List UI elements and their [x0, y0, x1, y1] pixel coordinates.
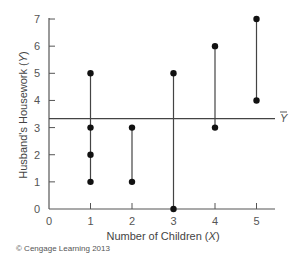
data-point	[212, 124, 218, 130]
axes	[49, 18, 275, 209]
y-tick-label: 0	[34, 203, 40, 215]
data-point	[87, 152, 93, 158]
data-point	[170, 206, 176, 212]
data-point	[212, 43, 218, 49]
data-point	[87, 124, 93, 130]
x-tick-label: 2	[129, 215, 135, 227]
data-point	[129, 179, 135, 185]
y-tick-label: 1	[34, 176, 40, 188]
y-tick-label: 5	[34, 67, 40, 79]
x-tick-label: 5	[253, 215, 259, 227]
mean-label: Y	[280, 112, 288, 124]
data-point	[87, 179, 93, 185]
data-point	[253, 97, 259, 103]
data-point	[129, 124, 135, 130]
x-tick-label: 4	[212, 215, 218, 227]
vertical-range-lines	[91, 19, 257, 209]
copyright-notice: © Cengage Learning 2013	[16, 244, 110, 253]
data-point	[87, 70, 93, 76]
svg-text:Y: Y	[280, 112, 288, 124]
y-axis-label: Husband's Housework (Y)	[17, 51, 29, 178]
y-tick-label: 6	[34, 40, 40, 52]
data-point	[253, 16, 259, 22]
x-tick-label: 0	[46, 215, 52, 227]
y-tick-label: 2	[34, 149, 40, 161]
y-tick-label: 7	[34, 13, 40, 25]
x-axis-label: Number of Children (X)	[106, 230, 219, 242]
x-tick-label: 1	[87, 215, 93, 227]
chart-canvas: 01234567012345 Number of Children (X) Hu…	[0, 0, 301, 263]
y-tick-label: 4	[34, 94, 40, 106]
x-tick-label: 3	[170, 215, 176, 227]
data-point	[170, 70, 176, 76]
tick-labels: 01234567012345	[34, 13, 260, 227]
y-tick-label: 3	[34, 122, 40, 134]
